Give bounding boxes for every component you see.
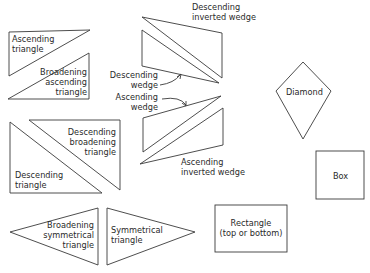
descending-inverted-wedge-label: Descending inverted wedge bbox=[192, 2, 256, 22]
broadening-symmetrical-triangle-label: Broadening symmetrical triangle bbox=[40, 220, 94, 250]
chart-patterns-diagram: Ascending triangle Broadening ascending … bbox=[0, 0, 370, 273]
ascending-wedge-label: Ascending wedge bbox=[100, 92, 158, 112]
symmetrical-triangle-label: Symmetrical triangle bbox=[111, 225, 163, 245]
diamond-shape bbox=[276, 62, 331, 139]
box-label: Box bbox=[333, 171, 348, 181]
ascending-triangle-label: Ascending triangle bbox=[12, 34, 54, 54]
ascending-inverted-wedge-label: Ascending inverted wedge bbox=[181, 157, 245, 177]
descending-triangle-label: Descending triangle bbox=[15, 170, 63, 190]
rectangle-label: Rectangle (top or bottom) bbox=[215, 218, 287, 238]
descending-broadening-triangle-label: Descending broadening triangle bbox=[48, 127, 116, 157]
broadening-ascending-triangle-label: Broadening ascending triangle bbox=[38, 67, 87, 97]
diamond-label: Diamond bbox=[286, 87, 323, 97]
ascending-wedge-arrow bbox=[162, 98, 186, 105]
descending-wedge-label: Descending wedge bbox=[100, 70, 158, 90]
ascending-inverted-wedge-shape bbox=[140, 108, 223, 164]
